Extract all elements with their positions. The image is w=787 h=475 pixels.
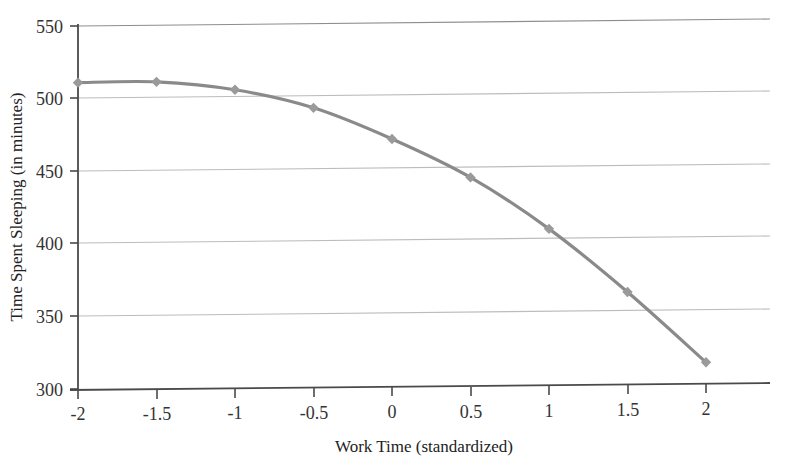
x-tick-label--0.5: -0.5 [300, 403, 329, 423]
x-tick-label-1: 1 [545, 401, 554, 421]
x-tick-label-1.5: 1.5 [617, 400, 640, 420]
y-tick-label-500: 500 [36, 89, 63, 109]
y-axis-title: Time Spent Sleeping (in minutes) [7, 93, 26, 322]
x-axis-title: Work Time (standardized) [335, 437, 513, 456]
y-tick-label-550: 550 [36, 17, 63, 37]
y-tick-label-400: 400 [36, 234, 63, 254]
chart-figure: 550 500 450 400 350 300 -2 -1.5 -1 -0.5 … [0, 0, 787, 475]
x-tick-label--1: -1 [228, 403, 243, 423]
x-tick-label-2: 2 [702, 399, 711, 419]
line-chart-canvas: 550 500 450 400 350 300 -2 -1.5 -1 -0.5 … [0, 0, 787, 475]
x-tick-label--1.5: -1.5 [143, 404, 172, 424]
y-tick-label-350: 350 [36, 307, 63, 327]
y-tick-label-450: 450 [36, 162, 63, 182]
x-tick-label-0.5: 0.5 [460, 402, 483, 422]
y-tick-label-300: 300 [36, 380, 63, 400]
x-tick-label-0: 0 [388, 402, 397, 422]
x-tick-label--2: -2 [71, 404, 86, 424]
